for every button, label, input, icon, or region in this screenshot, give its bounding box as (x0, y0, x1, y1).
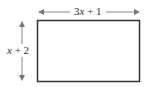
height-label-rest: + 2 (12, 44, 29, 56)
width-label-rest: + 1 (84, 5, 101, 17)
rectangle (38, 21, 140, 82)
width-label: 3x + 1 (74, 6, 102, 17)
height-label: x + 2 (7, 45, 29, 56)
